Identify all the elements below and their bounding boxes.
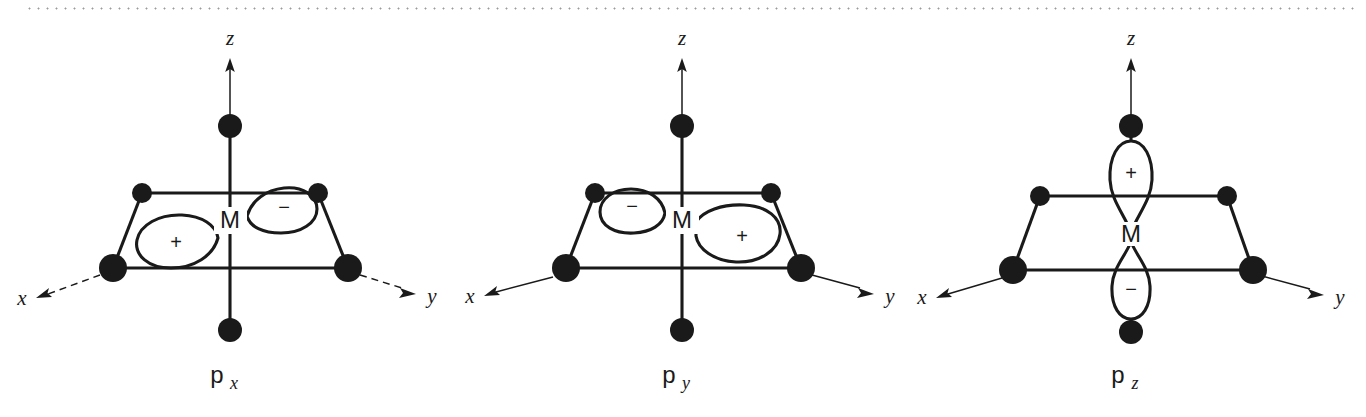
axis-label-z: z [225, 26, 234, 50]
y-axis-arrowhead [399, 288, 416, 298]
y-axis-line [1262, 276, 1310, 289]
metal-center-group: M [214, 206, 247, 234]
z-axis-group: z [677, 26, 687, 118]
z-axis-group: z [225, 26, 235, 118]
x-axis-group: x [16, 275, 100, 310]
ligand-front-left [552, 254, 580, 282]
ligand-front-right [334, 254, 362, 282]
panel-caption-py: p y [662, 361, 690, 393]
ligand-back-right [1217, 186, 1237, 206]
panel-caption-px: p x [210, 361, 238, 393]
axis-label-x: x [916, 285, 927, 309]
lobe-positive-sign: + [1125, 162, 1137, 184]
panel-py: z x y − [456, 0, 912, 417]
ligand-axial-top [1119, 114, 1143, 138]
caption-orbital-letter: p [662, 361, 675, 388]
ligand-axial-top [670, 114, 694, 138]
ligand-back-left [585, 183, 605, 203]
py-diagram: z x y − [456, 0, 912, 417]
metal-label: M [1121, 220, 1141, 247]
ligand-back-right [308, 183, 328, 203]
y-axis-arrowhead [857, 288, 874, 298]
lobe-negative-sign: − [278, 196, 290, 218]
caption-orbital-subscript: z [1130, 373, 1138, 393]
metal-center-group: M [666, 206, 699, 234]
x-axis-group: x [464, 277, 553, 308]
axis-label-y: y [883, 284, 895, 308]
ligand-back-left [132, 183, 152, 203]
ligand-front-left [999, 256, 1027, 284]
x-axis-line [496, 277, 553, 292]
ligand-axial-bottom [1119, 320, 1143, 344]
metal-label: M [220, 206, 240, 233]
pz-diagram: z x y + [910, 0, 1366, 417]
caption-orbital-subscript: y [680, 373, 690, 393]
axis-label-x: x [16, 286, 27, 310]
lobe-negative-sign: − [626, 195, 638, 217]
y-axis-group: y [1262, 276, 1345, 309]
axis-label-y: y [425, 284, 437, 308]
axis-label-y: y [1333, 285, 1345, 309]
y-axis-arrowhead [1307, 289, 1324, 299]
caption-orbital-letter: p [210, 361, 223, 388]
x-axis-line [948, 278, 1002, 294]
ligand-front-left [99, 254, 127, 282]
z-axis-group: z [1126, 26, 1136, 118]
y-axis-line [360, 275, 402, 288]
metal-label: M [672, 206, 692, 233]
lobe-positive-sign: + [170, 231, 182, 253]
ligand-back-left [1030, 186, 1050, 206]
y-axis-line [812, 275, 860, 288]
x-axis-line [48, 275, 100, 294]
x-axis-group: x [916, 278, 1002, 309]
lobe-positive-sign: + [736, 225, 748, 247]
ligand-front-right [1239, 256, 1267, 284]
ligand-axial-top [218, 114, 242, 138]
lobe-positive-outline [1110, 141, 1152, 232]
lobe-negative-sign: − [1125, 278, 1137, 300]
panel-pz: z x y + [910, 0, 1366, 417]
ligand-axial-bottom [670, 318, 694, 342]
ligand-front-right [787, 254, 815, 282]
caption-orbital-letter: p [1111, 361, 1124, 388]
caption-orbital-subscript: x [229, 373, 238, 393]
axis-label-x: x [464, 284, 475, 308]
axis-label-z: z [1126, 26, 1135, 50]
metal-center-group: M [1116, 220, 1147, 247]
y-axis-group: y [360, 275, 437, 308]
y-axis-group: y [812, 275, 895, 308]
panel-caption-pz: p z [1111, 361, 1138, 393]
axis-label-z: z [677, 26, 686, 50]
panel-px: z x y [0, 0, 456, 417]
px-diagram: z x y [0, 0, 456, 417]
ligand-axial-bottom [218, 318, 242, 342]
orbital-figure: z x y [0, 0, 1366, 417]
ligand-back-right [761, 183, 781, 203]
